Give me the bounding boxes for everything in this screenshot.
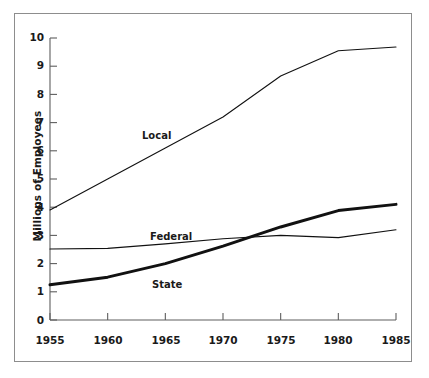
y-axis-ticks	[50, 38, 57, 320]
x-axis-ticks	[50, 313, 396, 320]
chart-canvas	[0, 0, 429, 378]
series-line-state	[50, 204, 396, 284]
series-line-local	[50, 47, 396, 210]
figure: Millions of Employees 10 9 8 7 6 5 4 3 2…	[0, 0, 429, 378]
chart-plot-area: Millions of Employees 10 9 8 7 6 5 4 3 2…	[0, 0, 429, 378]
data-series-lines	[50, 47, 396, 285]
